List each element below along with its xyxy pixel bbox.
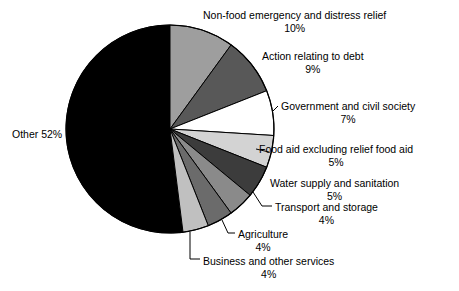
pie-label-water-supply-and-sanitation: Water supply and sanitation 5% <box>270 177 399 202</box>
pie-label-action-relating-to-debt: Action relating to debt 9% <box>262 50 364 75</box>
pie-slice-other[interactable] <box>66 25 183 233</box>
pie-label-business-and-other-services: Business and other services 4% <box>203 255 334 280</box>
pie-label-transport-and-storage: Transport and storage 4% <box>275 201 378 226</box>
pie-label-percent: 4% <box>238 241 288 254</box>
pie-label-percent: 10% <box>203 22 386 35</box>
pie-label-percent: 5% <box>259 156 413 169</box>
pie-label-text: Food aid excluding relief food aid <box>259 143 413 156</box>
pie-label-government-and-civil-society: Government and civil society 7% <box>281 100 415 125</box>
pie-label-text: Transport and storage <box>275 201 378 214</box>
leader-line-business-and-other-services <box>190 232 200 259</box>
pie-label-percent: 4% <box>203 268 334 281</box>
pie-label-text: Action relating to debt <box>262 50 364 63</box>
pie-label-text: Business and other services <box>203 255 334 268</box>
leader-line-agriculture <box>222 220 235 233</box>
pie-label-text: Non-food emergency and distress relief <box>203 9 386 22</box>
pie-label-text: Other 52% <box>12 128 62 140</box>
pie-label-other: Other 52% <box>12 128 62 141</box>
pie-label-text: Agriculture <box>238 228 288 241</box>
pie-chart: Non-food emergency and distress relief 1… <box>0 0 459 291</box>
pie-label-percent: 4% <box>275 214 378 227</box>
pie-label-food-aid-excluding-relief-food-aid: Food aid excluding relief food aid 5% <box>259 143 413 168</box>
pie-label-non-food-emergency-and-distress-relief: Non-food emergency and distress relief 1… <box>203 9 386 34</box>
pie-label-percent: 9% <box>262 63 364 76</box>
pie-label-agriculture: Agriculture 4% <box>238 228 288 253</box>
pie-label-percent: 7% <box>281 113 415 126</box>
pie-label-text: Water supply and sanitation <box>270 177 399 190</box>
pie-label-text: Government and civil society <box>281 100 415 113</box>
leader-line-government-and-civil-society <box>272 106 278 112</box>
